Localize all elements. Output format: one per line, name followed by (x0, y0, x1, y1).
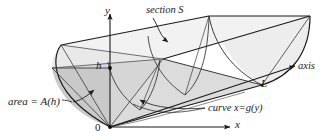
label-length-L: L (261, 78, 267, 89)
label-curve: curve x=g(y) (208, 103, 263, 114)
label-section: section S (146, 5, 184, 16)
height-point-marker (108, 66, 112, 70)
figure-drawing (0, 0, 329, 140)
origin-point-marker (108, 125, 112, 129)
figure-container: area = A(h) curve x=g(y) section S axis … (0, 0, 329, 140)
label-area: area = A(h) (8, 96, 60, 107)
label-origin: 0 (95, 122, 101, 133)
label-height-h: h (96, 60, 102, 71)
label-x-axis: x (235, 119, 240, 130)
label-axis: axis (298, 61, 315, 72)
label-y-axis: y (105, 5, 110, 16)
